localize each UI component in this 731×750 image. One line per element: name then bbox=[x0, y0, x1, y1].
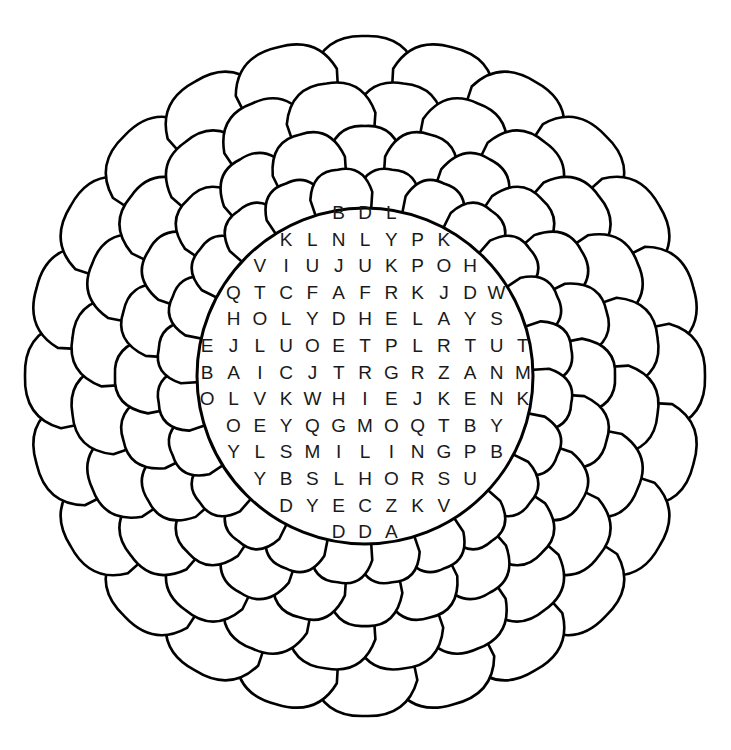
grid-letter[interactable]: Y bbox=[248, 469, 272, 489]
grid-letter[interactable]: J bbox=[406, 389, 430, 409]
grid-letter[interactable]: K bbox=[511, 389, 535, 409]
grid-letter[interactable]: K bbox=[406, 496, 430, 516]
grid-letter[interactable]: O bbox=[379, 469, 403, 489]
grid-letter[interactable]: Z bbox=[379, 496, 403, 516]
grid-letter[interactable]: L bbox=[248, 336, 272, 356]
grid-letter[interactable]: L bbox=[406, 309, 430, 329]
grid-letter[interactable]: B bbox=[458, 416, 482, 436]
grid-letter[interactable]: I bbox=[248, 363, 272, 383]
grid-letter[interactable]: N bbox=[406, 442, 430, 462]
grid-letter[interactable]: Z bbox=[432, 363, 456, 383]
grid-letter[interactable]: K bbox=[432, 230, 456, 250]
grid-letter[interactable]: J bbox=[432, 283, 456, 303]
grid-letter[interactable]: P bbox=[379, 336, 403, 356]
grid-letter[interactable]: I bbox=[327, 442, 351, 462]
grid-letter[interactable]: Q bbox=[300, 416, 324, 436]
grid-letter[interactable]: Y bbox=[300, 496, 324, 516]
grid-letter[interactable]: P bbox=[406, 230, 430, 250]
grid-letter[interactable]: T bbox=[353, 336, 377, 356]
grid-letter[interactable]: D bbox=[327, 309, 351, 329]
grid-letter[interactable]: Y bbox=[274, 416, 298, 436]
grid-letter[interactable]: I bbox=[274, 256, 298, 276]
grid-letter[interactable]: I bbox=[353, 389, 377, 409]
grid-letter[interactable]: E bbox=[379, 309, 403, 329]
grid-letter[interactable]: N bbox=[485, 363, 509, 383]
grid-letter[interactable]: T bbox=[248, 283, 272, 303]
grid-letter[interactable]: Y bbox=[485, 416, 509, 436]
grid-letter[interactable]: J bbox=[300, 363, 324, 383]
grid-letter[interactable]: Q bbox=[222, 283, 246, 303]
grid-letter[interactable]: J bbox=[222, 336, 246, 356]
grid-letter[interactable]: L bbox=[248, 442, 272, 462]
grid-letter[interactable]: R bbox=[379, 283, 403, 303]
grid-letter[interactable]: N bbox=[485, 389, 509, 409]
grid-letter[interactable]: H bbox=[327, 389, 351, 409]
grid-letter[interactable]: B bbox=[327, 203, 351, 223]
grid-letter[interactable]: V bbox=[432, 496, 456, 516]
grid-letter[interactable]: T bbox=[432, 416, 456, 436]
grid-letter[interactable]: F bbox=[300, 283, 324, 303]
grid-letter[interactable]: R bbox=[406, 469, 430, 489]
grid-letter[interactable]: L bbox=[274, 309, 298, 329]
grid-letter[interactable]: Y bbox=[458, 309, 482, 329]
grid-letter[interactable]: E bbox=[327, 496, 351, 516]
grid-letter[interactable]: A bbox=[432, 309, 456, 329]
grid-letter[interactable]: K bbox=[274, 230, 298, 250]
grid-letter[interactable]: R bbox=[406, 363, 430, 383]
grid-letter[interactable]: A bbox=[379, 522, 403, 542]
grid-letter[interactable]: S bbox=[274, 442, 298, 462]
grid-letter[interactable]: D bbox=[274, 496, 298, 516]
grid-letter[interactable]: U bbox=[274, 336, 298, 356]
grid-letter[interactable]: D bbox=[353, 203, 377, 223]
grid-letter[interactable]: L bbox=[406, 336, 430, 356]
grid-letter[interactable]: C bbox=[353, 496, 377, 516]
grid-letter[interactable]: B bbox=[485, 442, 509, 462]
grid-letter[interactable]: Y bbox=[379, 230, 403, 250]
grid-letter[interactable]: U bbox=[485, 336, 509, 356]
grid-letter[interactable]: N bbox=[327, 230, 351, 250]
grid-letter[interactable]: Q bbox=[406, 416, 430, 436]
grid-letter[interactable]: W bbox=[300, 389, 324, 409]
grid-letter[interactable]: L bbox=[353, 230, 377, 250]
grid-letter[interactable]: C bbox=[274, 283, 298, 303]
grid-letter[interactable]: U bbox=[353, 256, 377, 276]
grid-letter[interactable]: B bbox=[274, 469, 298, 489]
grid-letter[interactable]: M bbox=[353, 416, 377, 436]
grid-letter[interactable]: M bbox=[300, 442, 324, 462]
grid-letter[interactable]: H bbox=[353, 309, 377, 329]
grid-letter[interactable]: D bbox=[458, 283, 482, 303]
grid-letter[interactable]: Y bbox=[222, 442, 246, 462]
grid-letter[interactable]: O bbox=[300, 336, 324, 356]
grid-letter[interactable]: U bbox=[458, 469, 482, 489]
grid-letter[interactable]: L bbox=[353, 442, 377, 462]
grid-letter[interactable]: H bbox=[222, 309, 246, 329]
grid-letter[interactable]: V bbox=[248, 389, 272, 409]
grid-letter[interactable]: J bbox=[327, 256, 351, 276]
grid-letter[interactable]: M bbox=[511, 363, 535, 383]
grid-letter[interactable]: G bbox=[379, 363, 403, 383]
grid-letter[interactable]: E bbox=[458, 389, 482, 409]
grid-letter[interactable]: L bbox=[379, 203, 403, 223]
grid-letter[interactable]: A bbox=[222, 363, 246, 383]
grid-letter[interactable]: S bbox=[432, 469, 456, 489]
grid-letter[interactable]: P bbox=[458, 442, 482, 462]
grid-letter[interactable]: T bbox=[511, 336, 535, 356]
grid-letter[interactable]: H bbox=[353, 469, 377, 489]
grid-letter[interactable]: V bbox=[248, 256, 272, 276]
grid-letter[interactable]: O bbox=[379, 416, 403, 436]
grid-letter[interactable]: E bbox=[195, 336, 219, 356]
grid-letter[interactable]: L bbox=[222, 389, 246, 409]
grid-letter[interactable]: T bbox=[458, 336, 482, 356]
grid-letter[interactable]: E bbox=[248, 416, 272, 436]
grid-letter[interactable]: K bbox=[274, 389, 298, 409]
grid-letter[interactable]: A bbox=[458, 363, 482, 383]
grid-letter[interactable]: B bbox=[195, 363, 219, 383]
grid-letter[interactable]: O bbox=[432, 256, 456, 276]
grid-letter[interactable]: O bbox=[195, 389, 219, 409]
grid-letter[interactable]: T bbox=[327, 363, 351, 383]
grid-letter[interactable]: H bbox=[458, 256, 482, 276]
grid-letter[interactable]: E bbox=[379, 389, 403, 409]
grid-letter[interactable]: S bbox=[300, 469, 324, 489]
grid-letter[interactable]: W bbox=[485, 283, 509, 303]
grid-letter[interactable]: K bbox=[406, 283, 430, 303]
